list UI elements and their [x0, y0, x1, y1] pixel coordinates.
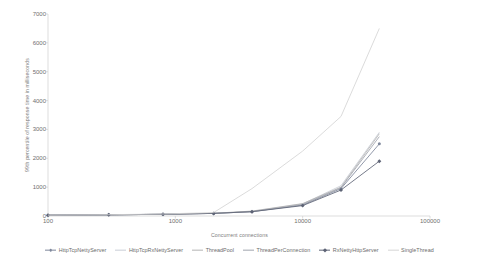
- legend-label: ThreadPerConnection: [257, 247, 311, 253]
- y-tick-label: 6000: [10, 40, 46, 46]
- series-lines: [48, 14, 430, 216]
- legend-marker-icon: [192, 247, 203, 253]
- series-ThreadPerConnection: [48, 137, 379, 215]
- series-HttpTcpRxNettyServer: [48, 132, 379, 215]
- legend-item-HttpTcpNettyServer[interactable]: HttpTcpNettyServer: [45, 247, 106, 253]
- y-tick-label: 1000: [10, 184, 46, 190]
- y-tick-label: 3000: [10, 126, 46, 132]
- series-line: [48, 137, 379, 215]
- legend-label: RxNettyHttpServer: [333, 247, 379, 253]
- plot-area: [48, 14, 430, 216]
- series-line: [48, 144, 379, 215]
- x-axis-title: Concurrent connections: [0, 232, 479, 238]
- series-line: [48, 161, 379, 215]
- legend-marker-icon: [388, 247, 399, 253]
- legend-marker-icon: [45, 247, 56, 253]
- series-line: [48, 134, 379, 215]
- legend-label: HttpTcpRxNettyServer: [129, 247, 183, 253]
- series-HttpTcpNettyServer: [47, 142, 381, 216]
- x-tick-label: 100000: [420, 218, 440, 224]
- legend-label: HttpTcpNettyServer: [59, 247, 107, 253]
- series-line: [48, 28, 379, 215]
- legend-item-SingleThread[interactable]: SingleThread: [388, 247, 434, 253]
- legend-item-ThreadPool[interactable]: ThreadPool: [192, 247, 234, 253]
- chart-legend: HttpTcpNettyServerHttpTcpRxNettyServerTh…: [0, 247, 479, 253]
- x-tick-label: 100: [43, 218, 53, 224]
- legend-label: SingleThread: [401, 247, 434, 253]
- data-point: [378, 142, 381, 145]
- series-line: [48, 132, 379, 215]
- legend-label: ThreadPool: [206, 247, 234, 253]
- y-tick-label: 4000: [10, 98, 46, 104]
- legend-item-HttpTcpRxNettyServer[interactable]: HttpTcpRxNettyServer: [115, 247, 183, 253]
- chart-container: 99th percentile of response time in mill…: [0, 0, 479, 273]
- legend-marker-icon: [115, 247, 126, 253]
- data-point: [250, 210, 254, 214]
- x-tick-label: 1000: [169, 218, 182, 224]
- y-tick-label: 0: [10, 213, 46, 219]
- series-ThreadPool: [48, 134, 379, 215]
- y-tick-label: 5000: [10, 69, 46, 75]
- y-tick-label: 2000: [10, 155, 46, 161]
- series-RxNettyHttpServer: [46, 159, 381, 217]
- y-tick-label: 7000: [10, 11, 46, 17]
- legend-marker-icon: [243, 247, 254, 253]
- series-SingleThread: [48, 28, 379, 215]
- legend-marker-icon: [319, 247, 330, 253]
- legend-item-ThreadPerConnection[interactable]: ThreadPerConnection: [243, 247, 310, 253]
- x-tick-label: 10000: [294, 218, 311, 224]
- legend-item-RxNettyHttpServer[interactable]: RxNettyHttpServer: [319, 247, 378, 253]
